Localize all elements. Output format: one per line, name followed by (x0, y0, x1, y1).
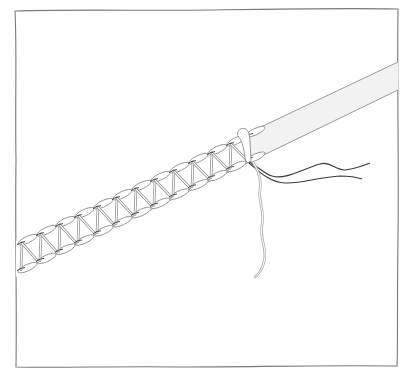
light-thread (253, 162, 265, 278)
illustration-frame (0, 0, 410, 379)
frame-border (15, 9, 398, 368)
dark-thread-1 (249, 162, 370, 177)
stitch-illustration (0, 0, 410, 379)
